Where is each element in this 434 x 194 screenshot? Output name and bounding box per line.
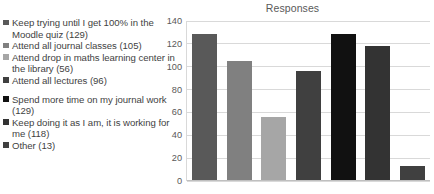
legend-spacer	[3, 87, 179, 94]
y-axis-tick-label: 100	[167, 62, 182, 72]
legend-item-label: Spend more time on my journal work (129)	[12, 94, 167, 117]
legend-swatch	[3, 142, 9, 148]
legend-item-label: Keep trying until I get 100% in the Mood…	[12, 17, 154, 40]
y-axis-tick-label: 0	[177, 176, 182, 186]
y-axis-tick-label: 120	[167, 39, 182, 49]
bar[interactable]	[192, 34, 217, 181]
legend-item[interactable]: Keep doing it as I am, it is working for…	[3, 117, 179, 140]
y-axis-tick-label: 40	[172, 130, 182, 140]
bar-series	[187, 21, 430, 181]
chart-legend: Keep trying until I get 100% in the Mood…	[3, 17, 179, 152]
bar[interactable]	[400, 166, 425, 181]
legend-swatch	[3, 119, 9, 125]
legend-swatch	[3, 20, 9, 26]
y-axis-tick-label: 80	[172, 85, 182, 95]
y-axis-tick-label: 20	[172, 153, 182, 163]
legend-item-label: Other (13)	[12, 140, 55, 151]
legend-item[interactable]: Other (13)	[3, 140, 179, 152]
legend-item-label: Attend all journal classes (105)	[12, 40, 142, 51]
legend-item[interactable]: Keep trying until I get 100% in the Mood…	[3, 17, 179, 40]
legend-swatch	[3, 96, 9, 102]
bar[interactable]	[227, 61, 252, 181]
legend-item-label: Attend drop in maths learning center in …	[12, 52, 175, 75]
legend-item[interactable]: Attend all lectures (96)	[3, 75, 179, 87]
plot-wrapper: Responses 140120100806040200	[155, 0, 434, 194]
legend-item-label: Keep doing it as I am, it is working for…	[12, 117, 169, 140]
chart-title: Responses	[155, 2, 430, 14]
bar[interactable]	[331, 34, 356, 181]
bar[interactable]	[365, 46, 390, 181]
legend-swatch	[3, 54, 9, 60]
y-axis-tick-label: 60	[172, 107, 182, 117]
legend-item-label: Attend all lectures (96)	[12, 75, 107, 86]
x-axis-line	[187, 180, 430, 181]
plot-area: 140120100806040200	[186, 21, 430, 181]
legend-swatch	[3, 77, 9, 83]
chart-screenshot: Keep trying until I get 100% in the Mood…	[0, 0, 434, 194]
legend-item[interactable]: Attend all journal classes (105)	[3, 40, 179, 52]
legend-item[interactable]: Spend more time on my journal work (129)	[3, 94, 179, 117]
bar[interactable]	[296, 71, 321, 181]
legend-item[interactable]: Attend drop in maths learning center in …	[3, 52, 179, 75]
y-axis-tick-label: 140	[167, 16, 182, 26]
bar[interactable]	[261, 117, 286, 181]
legend-swatch	[3, 43, 9, 49]
